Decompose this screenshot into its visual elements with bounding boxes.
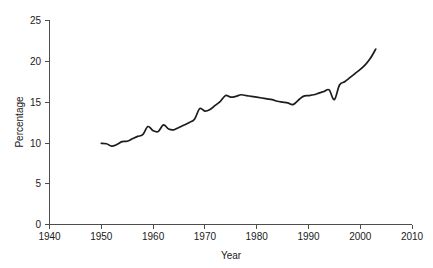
y-tick-label-5: 5 <box>35 178 41 189</box>
x-tick-label-2010: 2010 <box>401 231 424 242</box>
x-tick-label-2000: 2000 <box>349 231 372 242</box>
x-tick-label-1970: 1970 <box>194 231 217 242</box>
x-tick-label-1960: 1960 <box>142 231 165 242</box>
y-tick-label-25: 25 <box>30 15 42 26</box>
y-tick-label-20: 20 <box>30 56 42 67</box>
line-chart-canvas: 25 20 15 10 5 0 1940 1950 1960 1970 1980… <box>0 0 433 268</box>
chart-figure: 25 20 15 10 5 0 1940 1950 1960 1970 1980… <box>0 0 433 268</box>
x-tick-label-1950: 1950 <box>90 231 113 242</box>
y-tick-label-10: 10 <box>30 138 42 149</box>
y-tick-label-15: 15 <box>30 97 42 108</box>
data-series-line <box>101 49 375 146</box>
x-axis-ticks <box>50 225 413 230</box>
x-tick-label-1990: 1990 <box>297 231 320 242</box>
y-axis-title: Percentage <box>14 96 25 148</box>
y-tick-label-0: 0 <box>35 219 41 230</box>
y-axis-ticks <box>45 21 50 225</box>
x-axis-title: Year <box>221 250 242 261</box>
x-tick-label-1940: 1940 <box>38 231 61 242</box>
x-tick-label-1980: 1980 <box>246 231 269 242</box>
